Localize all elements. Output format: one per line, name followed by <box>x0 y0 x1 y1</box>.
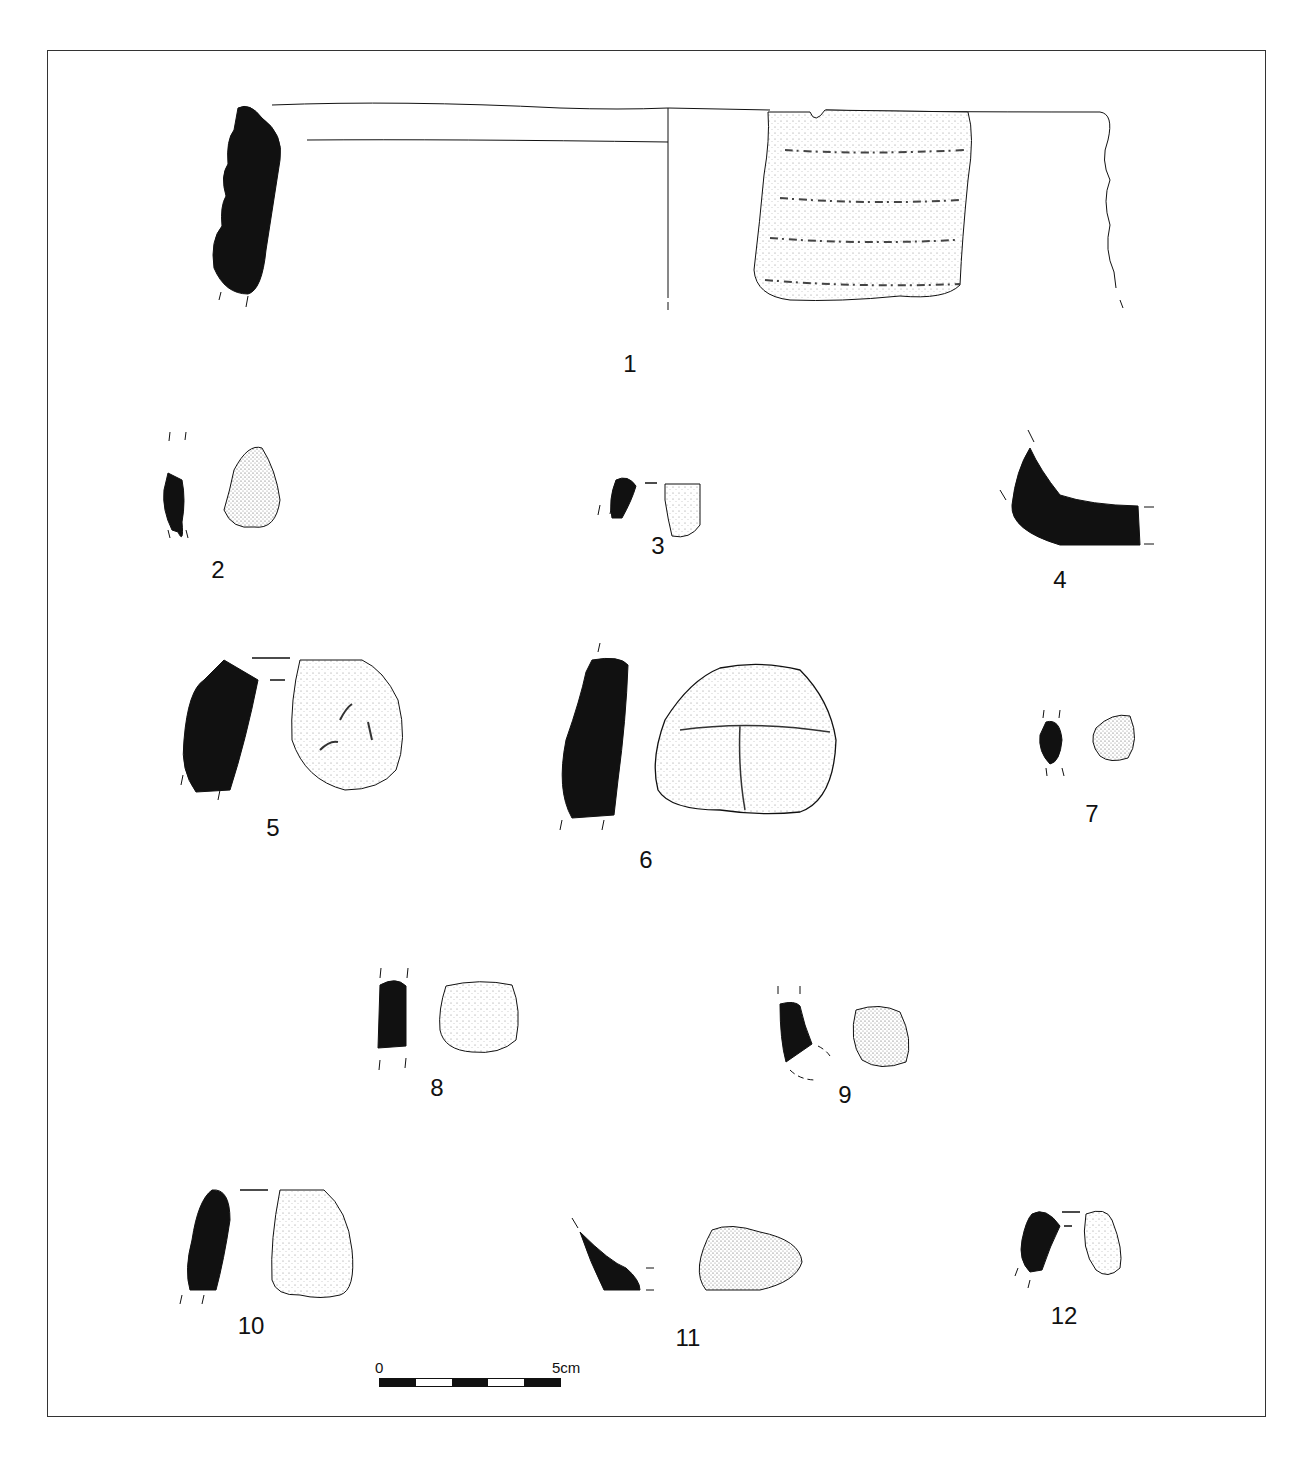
label-sherd-6: 6 <box>639 848 652 872</box>
sherd-5 <box>181 658 403 800</box>
scale-segment <box>488 1379 524 1386</box>
sherd-10 <box>180 1190 353 1304</box>
scale-end-label: 5cm <box>552 1360 580 1375</box>
sherd-1 <box>213 103 1123 310</box>
sherd-drawings <box>0 0 1312 1469</box>
sherd-6 <box>560 643 836 830</box>
label-sherd-7: 7 <box>1085 802 1098 826</box>
sherd-7 <box>1040 710 1135 776</box>
sherd-1-exterior <box>754 110 972 301</box>
sherd-2 <box>164 432 280 538</box>
sherd-12 <box>1015 1211 1121 1288</box>
label-sherd-1: 1 <box>623 352 636 376</box>
label-sherd-8: 8 <box>430 1076 443 1100</box>
sherd-4 <box>1000 430 1154 545</box>
label-sherd-12: 12 <box>1051 1304 1078 1328</box>
scale-segment <box>524 1379 560 1386</box>
sherd-8 <box>378 968 518 1070</box>
label-sherd-5: 5 <box>266 816 279 840</box>
sherd-11 <box>572 1218 802 1290</box>
scale-segment <box>380 1379 416 1386</box>
label-sherd-3: 3 <box>651 534 664 558</box>
scale-segment <box>416 1379 452 1386</box>
label-sherd-10: 10 <box>238 1314 265 1338</box>
sherd-9 <box>778 986 909 1080</box>
scale-bar <box>379 1378 561 1387</box>
label-sherd-2: 2 <box>211 558 224 582</box>
sherd-3 <box>598 478 700 537</box>
label-sherd-4: 4 <box>1053 568 1066 592</box>
sherd-1-profile <box>213 106 281 294</box>
scale-start-label: 0 <box>375 1360 383 1375</box>
scale-segment <box>452 1379 488 1386</box>
label-sherd-9: 9 <box>838 1083 851 1107</box>
label-sherd-11: 11 <box>676 1326 701 1350</box>
